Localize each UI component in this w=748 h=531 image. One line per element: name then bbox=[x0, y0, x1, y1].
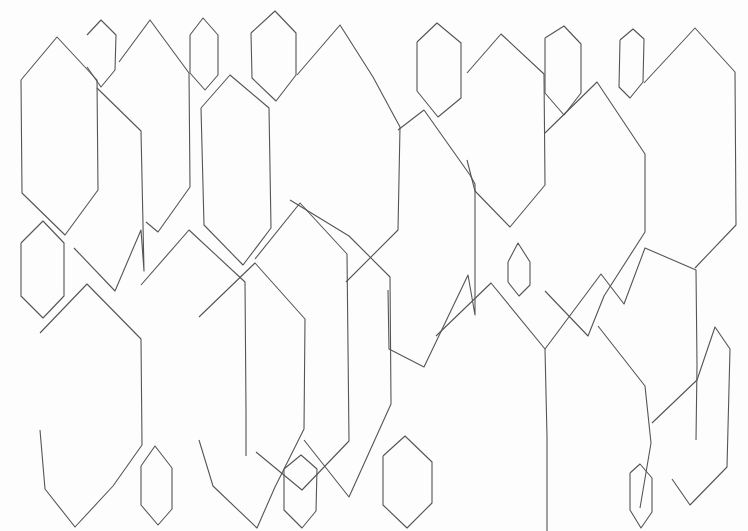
hexagon-outline bbox=[251, 11, 296, 101]
hexagon-outline bbox=[141, 230, 246, 456]
hexagon-outline bbox=[467, 34, 545, 227]
hexagon-outline bbox=[87, 20, 116, 87]
hexagon-outline bbox=[652, 327, 730, 505]
hexagon-outline bbox=[141, 446, 172, 525]
hexagon-outline bbox=[21, 221, 64, 318]
hexagon-outline bbox=[383, 436, 432, 528]
hexagon-outline bbox=[508, 243, 530, 296]
hexagon-outline bbox=[598, 326, 651, 508]
hexagon-outline bbox=[630, 464, 652, 528]
hexagon-outline bbox=[545, 248, 697, 440]
hexagon-outline bbox=[255, 203, 349, 490]
hexagon-outline bbox=[545, 26, 581, 115]
hexagon-outline bbox=[199, 263, 305, 528]
hexagon-outline bbox=[619, 29, 644, 98]
hexagon-outline bbox=[190, 18, 218, 90]
hexagon-outline bbox=[545, 82, 645, 336]
hexagon-outline bbox=[436, 283, 547, 531]
hexagon-outline bbox=[21, 37, 98, 235]
hexagon-outline bbox=[201, 75, 271, 265]
hexagon-outline bbox=[388, 110, 475, 367]
hexagon-drawing bbox=[0, 0, 748, 531]
hexagon-outline bbox=[417, 23, 461, 117]
hexagon-outline bbox=[119, 20, 190, 232]
hexagon-outline bbox=[644, 28, 736, 268]
hexagon-outline bbox=[40, 284, 142, 527]
hexagon-outline bbox=[74, 88, 144, 291]
hexagon-sketch bbox=[0, 0, 748, 531]
hexagon-outline bbox=[284, 455, 317, 528]
hexagon-outline bbox=[297, 25, 400, 282]
